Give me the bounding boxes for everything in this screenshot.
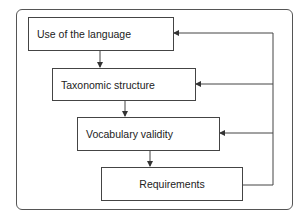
node-label: Taxonomic structure — [61, 79, 155, 91]
node-use-of-the-language: Use of the language — [28, 17, 174, 51]
node-label: Vocabulary validity — [86, 128, 173, 140]
node-requirements: Requirements — [101, 167, 243, 201]
node-label: Requirements — [139, 178, 204, 190]
node-label: Use of the language — [37, 28, 131, 40]
node-taxonomic-structure: Taxonomic structure — [52, 68, 196, 101]
node-vocabulary-validity: Vocabulary validity — [77, 117, 220, 151]
